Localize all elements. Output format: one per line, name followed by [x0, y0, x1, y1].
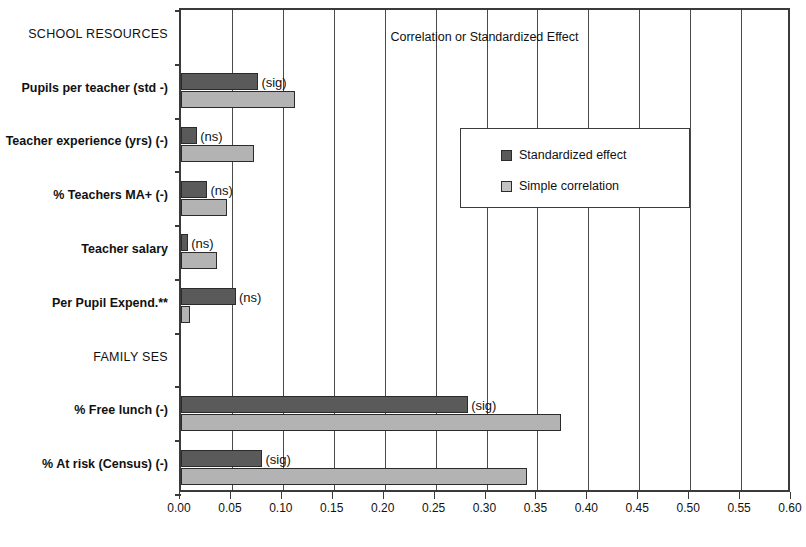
x-axis-tick-label: 0.00: [157, 502, 201, 514]
x-axis-tick: [586, 492, 587, 499]
bar-simple-correlation: [181, 414, 561, 431]
bar-simple-correlation: [181, 252, 217, 269]
bar-standardized-effect: [181, 234, 188, 251]
x-axis-tick: [485, 492, 486, 499]
plot-area: (sig)(ns)(ns)(ns)(ns)(sig)(sig): [179, 8, 790, 492]
x-axis: 0.000.050.100.150.200.250.300.350.400.45…: [0, 492, 806, 547]
x-axis-tick-label: 0.50: [666, 502, 710, 514]
bar-standardized-effect: [181, 73, 258, 90]
bar-simple-correlation: [181, 306, 190, 323]
y-axis-label: % Free lunch (-): [0, 404, 168, 417]
x-axis-title: Correlation or Standardized Effect: [179, 31, 790, 44]
x-axis-tick-label: 0.15: [310, 502, 354, 514]
bar-standardized-effect: [181, 450, 262, 467]
chart-row: (ns): [181, 225, 788, 279]
y-axis-label: % At risk (Census) (-): [0, 458, 168, 471]
x-axis-tick: [790, 492, 791, 499]
bar-simple-correlation: [181, 145, 254, 162]
y-axis-label: Per Pupil Expend.**: [0, 297, 168, 310]
bar-simple-correlation: [181, 468, 527, 485]
x-axis-tick-label: 0.40: [564, 502, 608, 514]
y-axis-label: FAMILY SES: [0, 351, 168, 364]
x-axis-tick: [281, 492, 282, 499]
chart-row: (sig): [181, 386, 788, 440]
x-axis-tick-label: 0.10: [259, 502, 303, 514]
legend-item-simple-correlation: Simple correlation: [501, 180, 619, 193]
significance-annotation: (ns): [191, 237, 213, 250]
significance-annotation: (ns): [210, 184, 232, 197]
x-axis-tick: [739, 492, 740, 499]
y-axis-label: SCHOOL RESOURCES: [0, 28, 168, 41]
x-axis-tick-label: 0.60: [768, 502, 806, 514]
legend-swatch-dark-icon: [501, 150, 512, 161]
x-axis-tick-label: 0.05: [208, 502, 252, 514]
y-axis-label: % Teachers MA+ (-): [0, 189, 168, 202]
legend-label: Simple correlation: [519, 180, 619, 193]
x-axis-tick: [332, 492, 333, 499]
x-axis-tick: [383, 492, 384, 499]
legend-label: Standardized effect: [519, 149, 626, 162]
y-axis-label: Teacher experience (yrs) (-): [0, 135, 168, 148]
x-axis-tick-label: 0.20: [361, 502, 405, 514]
chart-row: [181, 333, 788, 387]
x-axis-tick-label: 0.35: [513, 502, 557, 514]
y-axis-label: Pupils per teacher (std -): [0, 82, 168, 95]
significance-annotation: (ns): [200, 130, 222, 143]
x-axis-tick-label: 0.25: [412, 502, 456, 514]
significance-annotation: (sig): [261, 76, 286, 89]
chart-row: (ns): [181, 279, 788, 333]
bar-standardized-effect: [181, 396, 468, 413]
x-axis-tick: [179, 492, 180, 499]
x-axis-tick: [535, 492, 536, 499]
legend-item-standardized-effect: Standardized effect: [501, 149, 626, 162]
significance-annotation: (sig): [265, 453, 290, 466]
x-axis-tick: [230, 492, 231, 499]
bar-standardized-effect: [181, 288, 236, 305]
y-axis-labels: SCHOOL RESOURCESPupils per teacher (std …: [0, 0, 174, 547]
x-axis-tick-label: 0.55: [717, 502, 761, 514]
y-axis-label: Teacher salary: [0, 243, 168, 256]
bar-simple-correlation: [181, 199, 227, 216]
chart-row: (sig): [181, 440, 788, 494]
x-axis-tick-label: 0.30: [463, 502, 507, 514]
x-axis-tick-label: 0.45: [615, 502, 659, 514]
x-axis-tick: [434, 492, 435, 499]
x-axis-tick: [637, 492, 638, 499]
bar-chart: SCHOOL RESOURCESPupils per teacher (std …: [0, 0, 806, 547]
bar-standardized-effect: [181, 181, 207, 198]
bar-standardized-effect: [181, 127, 197, 144]
legend-swatch-light-icon: [501, 181, 512, 192]
significance-annotation: (ns): [239, 291, 261, 304]
chart-row: (sig): [181, 64, 788, 118]
legend: Standardized effect Simple correlation: [460, 128, 690, 208]
significance-annotation: (sig): [471, 399, 496, 412]
x-axis-tick: [688, 492, 689, 499]
bar-simple-correlation: [181, 91, 295, 108]
